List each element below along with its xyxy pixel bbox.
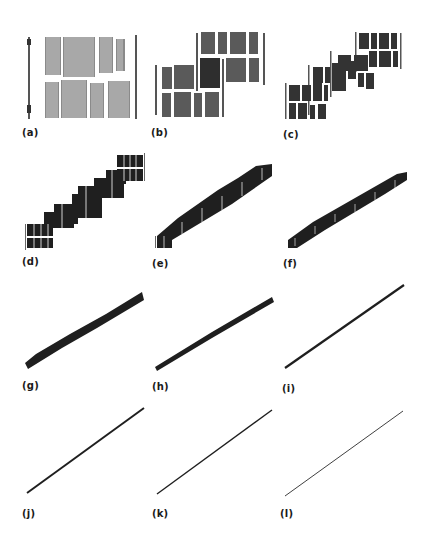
panel-label-h: (h) xyxy=(152,381,169,392)
page-image-l xyxy=(285,405,405,500)
panel-d xyxy=(22,152,147,252)
panel-l xyxy=(285,405,405,500)
panel-c xyxy=(282,25,412,125)
panel-label-c: (c) xyxy=(283,129,299,140)
panel-k xyxy=(155,405,275,500)
panel-g xyxy=(22,280,147,375)
panel-label-f: (f) xyxy=(283,258,297,269)
panel-e xyxy=(152,152,277,252)
panel-f xyxy=(285,152,410,252)
panel-i xyxy=(282,280,407,375)
page-image-d xyxy=(22,152,147,252)
page-image-c xyxy=(282,25,412,125)
panel-a xyxy=(20,25,140,125)
panel-label-e: (e) xyxy=(152,258,169,269)
page-image-i xyxy=(282,280,407,375)
panel-label-g: (g) xyxy=(22,380,39,391)
page-image-b xyxy=(150,25,275,125)
panel-label-d: (d) xyxy=(22,256,39,267)
panel-b xyxy=(150,25,275,125)
page-image-e xyxy=(152,152,277,252)
page-image-k xyxy=(155,405,275,500)
panel-j xyxy=(25,405,145,500)
page-image-h xyxy=(152,280,277,375)
panel-label-a: (a) xyxy=(22,127,39,138)
panel-label-j: (j) xyxy=(22,508,35,519)
panel-label-k: (k) xyxy=(152,508,168,519)
page-image-f xyxy=(285,152,410,252)
page-image-g xyxy=(22,280,147,375)
page-image-a xyxy=(20,25,140,125)
panel-label-b: (b) xyxy=(151,127,168,138)
panel-label-i: (i) xyxy=(282,383,295,394)
panel-h xyxy=(152,280,277,375)
panel-label-l: (l) xyxy=(280,508,293,519)
page-image-j xyxy=(25,405,145,500)
